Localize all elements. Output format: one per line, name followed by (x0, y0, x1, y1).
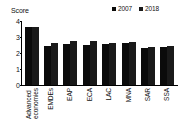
x-axis-label: MNA (125, 88, 132, 102)
bar-2007[interactable] (44, 46, 51, 85)
bar-group (22, 21, 41, 85)
plot-area: 01234 (22, 21, 177, 85)
x-axis-label-cell: MNA (119, 87, 138, 138)
bar-2007[interactable] (102, 44, 109, 85)
x-axis-label: EMDEs (47, 88, 54, 110)
legend-item-2007[interactable]: 2007 (112, 6, 132, 13)
bar-group (41, 21, 60, 85)
bar-2018[interactable] (148, 47, 155, 85)
x-axis-label: LAC (106, 88, 113, 101)
x-axis-labels: AdvancedeconomiesEMDEsEAPECALACMNASARSSA (22, 87, 177, 138)
legend-item-2018[interactable]: 2018 (139, 6, 159, 13)
bar-2007[interactable] (160, 47, 167, 85)
x-axis-label-line: ECA (86, 88, 93, 101)
x-axis-label-line: LAC (106, 88, 113, 101)
chart-legend: 2007 2018 (112, 6, 159, 13)
bar-2007[interactable] (122, 43, 129, 85)
legend-label-2007: 2007 (118, 6, 132, 13)
bar-2007[interactable] (141, 48, 148, 85)
bar-2018[interactable] (70, 41, 77, 85)
y-axis-title: Score (11, 7, 29, 14)
bar-group (80, 21, 99, 85)
x-axis-label-line: MNA (125, 88, 132, 102)
bar-group (138, 21, 157, 85)
x-axis-label: ECA (86, 88, 93, 101)
y-axis-tick-mark (20, 85, 22, 86)
x-axis-label: EAP (67, 88, 74, 101)
x-axis-label: SSA (164, 88, 171, 101)
x-axis-label: SAR (144, 88, 151, 101)
x-axis-label-cell: SSA (158, 87, 177, 138)
bar-2007[interactable] (63, 44, 70, 85)
bar-2007[interactable] (25, 27, 32, 85)
legend-label-2018: 2018 (145, 6, 159, 13)
x-axis-label-cell: SAR (138, 87, 157, 138)
x-axis-label-line: EMDEs (47, 88, 54, 110)
bar-group (119, 21, 138, 85)
x-axis-label-cell: LAC (100, 87, 119, 138)
bar-groups (22, 21, 177, 85)
x-axis-label-cell: EAP (61, 87, 80, 138)
x-axis-label: Advancedeconomies (24, 88, 38, 119)
bar-2018[interactable] (51, 43, 58, 85)
x-axis-label-line: EAP (67, 88, 74, 101)
x-axis-label-cell: ECA (80, 87, 99, 138)
chart-container: Score 2007 2018 01234 AdvancedeconomiesE… (0, 0, 184, 138)
x-axis-label-cell: Advancedeconomies (22, 87, 41, 138)
bar-group (61, 21, 80, 85)
x-axis-line (21, 85, 178, 86)
bar-2018[interactable] (90, 41, 97, 85)
x-axis-label-line: Advanced (24, 90, 31, 119)
bar-2018[interactable] (129, 42, 136, 85)
x-axis-label-line: SSA (164, 88, 171, 101)
bar-2018[interactable] (32, 27, 39, 85)
bar-2018[interactable] (109, 43, 116, 85)
x-axis-label-line: economies (32, 88, 39, 119)
bar-group (100, 21, 119, 85)
bar-2018[interactable] (167, 46, 174, 85)
legend-swatch-2018 (139, 7, 143, 11)
legend-swatch-2007 (112, 7, 116, 11)
bar-2007[interactable] (83, 45, 90, 85)
bar-group (158, 21, 177, 85)
x-axis-label-line: SAR (144, 88, 151, 101)
x-axis-label-cell: EMDEs (41, 87, 60, 138)
